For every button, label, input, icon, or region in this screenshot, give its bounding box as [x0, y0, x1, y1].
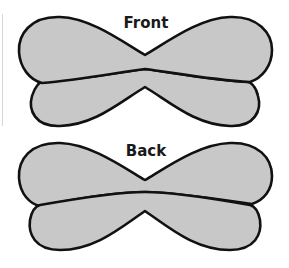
front-wings — [19, 17, 272, 126]
wings-diagram — [0, 0, 289, 268]
back-label: Back — [116, 142, 176, 160]
front-label: Front — [116, 14, 176, 32]
back-lower-wings — [30, 192, 261, 250]
